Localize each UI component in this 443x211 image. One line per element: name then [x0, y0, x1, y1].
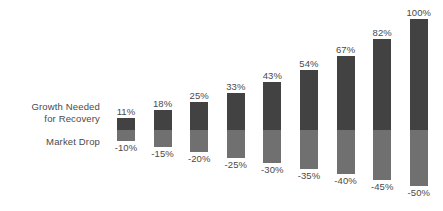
bar-value-label-growth: 54% [291, 58, 327, 69]
bar-value-label-growth: 82% [364, 27, 400, 38]
bar-value-label-growth: 43% [254, 70, 290, 81]
bar-group: 18%-15% [145, 0, 181, 211]
bar-value-label-drop: -15% [145, 148, 181, 159]
bar-segment-growth [300, 70, 318, 130]
bar-value-label-drop: -10% [108, 142, 144, 153]
bar-value-label-growth: 33% [218, 81, 254, 92]
bar-segment-drop [300, 130, 318, 169]
bar-segment-drop [190, 130, 208, 152]
series-label-growth-needed: Growth Needed for Recovery [0, 101, 100, 124]
bar-group: 43%-30% [254, 0, 290, 211]
bar-value-label-drop: -50% [401, 187, 437, 198]
market-drop-recovery-chart: Growth Needed for Recovery Market Drop 1… [0, 0, 443, 211]
bar-group: 33%-25% [218, 0, 254, 211]
bar-value-label-growth: 67% [328, 44, 364, 55]
bar-segment-drop [263, 130, 281, 163]
bar-group: 100%-50% [401, 0, 437, 211]
bar-segment-growth [263, 82, 281, 130]
bar-segment-growth [154, 110, 172, 130]
bar-value-label-drop: -20% [181, 153, 217, 164]
bar-segment-drop [154, 130, 172, 147]
bar-segment-drop [337, 130, 355, 174]
bar-segment-growth [190, 102, 208, 130]
bar-value-label-drop: -35% [291, 170, 327, 181]
bar-value-label-drop: -25% [218, 159, 254, 170]
bar-segment-drop [227, 130, 245, 158]
bar-segment-drop [373, 130, 391, 180]
bar-value-label-growth: 18% [145, 98, 181, 109]
series-label-market-drop: Market Drop [0, 136, 100, 148]
bar-segment-growth [373, 39, 391, 130]
bar-group: 67%-40% [328, 0, 364, 211]
bar-group: 11%-10% [108, 0, 144, 211]
bar-segment-growth [117, 118, 135, 130]
bar-value-label-drop: -30% [254, 164, 290, 175]
bar-segment-growth [337, 56, 355, 130]
bar-group: 54%-35% [291, 0, 327, 211]
bar-value-label-drop: -40% [328, 175, 364, 186]
bar-value-label-drop: -45% [364, 181, 400, 192]
bar-value-label-growth: 100% [401, 7, 437, 18]
plot-area: 11%-10%18%-15%25%-20%33%-25%43%-30%54%-3… [100, 0, 443, 211]
bar-segment-growth [227, 93, 245, 130]
series-label-growth-line-1: Growth Needed [0, 101, 100, 113]
bar-group: 25%-20% [181, 0, 217, 211]
series-label-drop-text: Market Drop [46, 136, 100, 147]
bar-segment-growth [410, 19, 428, 130]
bar-segment-drop [410, 130, 428, 186]
bar-segment-drop [117, 130, 135, 141]
series-label-growth-line-2: for Recovery [0, 113, 100, 125]
bar-value-label-growth: 11% [108, 106, 144, 117]
bar-value-label-growth: 25% [181, 90, 217, 101]
bar-group: 82%-45% [364, 0, 400, 211]
